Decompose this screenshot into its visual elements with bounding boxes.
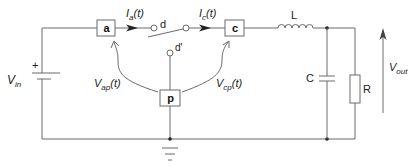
label-terminal-a: a (97, 22, 116, 34)
label-capacitor: C (306, 73, 314, 84)
label-vin-plus: + (32, 60, 38, 71)
label-terminal-c: c (225, 22, 245, 34)
inductor-coil (278, 25, 313, 29)
label-switch-d: d (160, 19, 166, 30)
junction-ground (168, 137, 172, 141)
label-vin: Vin (7, 74, 21, 89)
label-voltage-vap: Vap(t) (94, 78, 121, 92)
switch-terminal-d (151, 25, 157, 31)
switch-terminal-dprime (167, 50, 173, 56)
label-resistor: R (363, 84, 371, 95)
label-inductor: L (291, 10, 297, 21)
wire-inductor-to-output (313, 28, 355, 75)
resistor-body (350, 75, 360, 103)
label-current-ic: Ic(t) (199, 8, 216, 22)
label-voltage-vcp: Vcp(t) (216, 78, 242, 92)
label-switch-dprime: d' (175, 43, 182, 53)
label-vout: Vout (389, 62, 407, 76)
circuit-schematic (0, 0, 413, 166)
switch-common-terminal (183, 25, 189, 31)
label-current-ia: Ia(t) (126, 8, 144, 22)
label-terminal-p: p (160, 92, 181, 104)
